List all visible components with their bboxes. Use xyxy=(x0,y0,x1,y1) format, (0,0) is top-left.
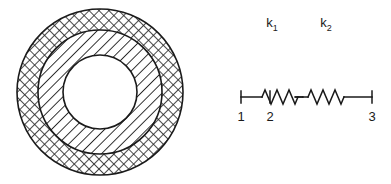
annulus-svg xyxy=(0,0,200,184)
spring-k1-subscript: 1 xyxy=(273,23,278,33)
spring-svg: k1 k2 1 2 3 xyxy=(200,0,391,184)
figure-root: k1 k2 1 2 3 xyxy=(0,0,391,184)
spring-background xyxy=(200,0,391,184)
annulus-diagram-panel xyxy=(0,0,200,184)
spring-k2-subscript: 2 xyxy=(327,23,332,33)
node-1-label: 1 xyxy=(237,109,244,124)
node-3-label: 3 xyxy=(368,109,375,124)
node-2-label: 2 xyxy=(266,109,273,124)
spring-diagram-panel: k1 k2 1 2 3 xyxy=(200,0,391,184)
